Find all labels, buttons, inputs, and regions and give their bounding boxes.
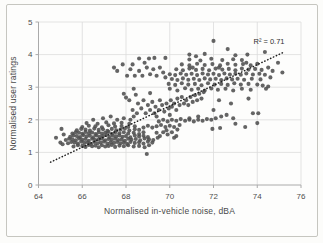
scatter-point	[124, 96, 128, 100]
scatter-point	[145, 152, 149, 156]
scatter-point	[164, 101, 168, 105]
scatter-point	[249, 63, 253, 67]
scatter-point	[157, 119, 161, 123]
scatter-point	[184, 98, 188, 102]
scatter-point	[175, 78, 179, 82]
scatter-point	[210, 62, 214, 66]
scatter-point	[197, 78, 201, 82]
scatter-point	[161, 70, 165, 74]
scatter-point	[186, 83, 190, 87]
scatter-point	[257, 72, 261, 76]
scatter-point	[160, 103, 164, 107]
scatter-point	[196, 87, 200, 91]
scatter-point	[240, 87, 244, 91]
scatter-point	[217, 73, 221, 77]
scatter-point	[201, 67, 205, 71]
scatter-point	[152, 56, 156, 60]
scatter-point	[141, 142, 145, 146]
x-tick-label: 76	[297, 192, 306, 201]
scatter-point	[216, 88, 220, 92]
scatter-point	[249, 88, 253, 92]
scatter-point	[85, 121, 89, 125]
scatter-point	[132, 144, 136, 148]
scatter-point	[155, 74, 159, 78]
scatter-point	[220, 58, 224, 62]
scatter-point	[231, 88, 235, 92]
scatter-point	[122, 116, 126, 120]
scatter-point	[168, 124, 172, 128]
scatter-point	[217, 98, 221, 102]
scatter-point	[191, 100, 195, 104]
scatter-point	[151, 138, 155, 142]
scatter-point	[153, 105, 157, 109]
scatter-point	[195, 62, 199, 66]
scatter-point	[134, 93, 138, 97]
scatter-point	[148, 91, 152, 95]
scatter-point	[192, 77, 196, 81]
scatter-point	[233, 68, 237, 72]
scatter-point	[128, 118, 132, 122]
scatter-point	[169, 98, 173, 102]
scatter-point	[219, 82, 223, 86]
scatter-point	[260, 68, 264, 72]
scatter-point	[186, 78, 190, 82]
scatter-point	[146, 103, 150, 107]
y-tick-label: 5	[28, 18, 33, 27]
scatter-point	[231, 116, 235, 120]
scatter-point	[115, 118, 119, 122]
scatter-point	[173, 83, 177, 87]
scatter-point	[101, 116, 105, 120]
scatter-point	[251, 72, 255, 76]
scatter-point	[276, 61, 280, 65]
scatter-point	[223, 87, 227, 91]
scatter-point	[178, 123, 182, 127]
scatter-point	[263, 50, 267, 54]
scatter-point	[175, 128, 179, 132]
scatter-point	[137, 56, 141, 60]
scatter-point	[219, 114, 223, 118]
scatter-point	[244, 61, 248, 65]
scatter-point	[180, 62, 184, 66]
scatter-point	[75, 128, 79, 132]
scatter-point	[175, 88, 179, 92]
scatter-point	[187, 57, 191, 61]
scatter-point	[158, 66, 162, 70]
scatter-point	[139, 106, 143, 110]
scatter-point	[211, 72, 215, 76]
scatter-point	[117, 131, 121, 135]
scatter-point	[206, 81, 210, 85]
x-tick-label: 66	[78, 192, 87, 201]
scatter-point	[264, 87, 268, 91]
scatter-point	[128, 67, 132, 71]
scatter-point	[208, 77, 212, 81]
scatter-point	[174, 108, 178, 112]
scatter-point	[132, 114, 136, 118]
scatter-point	[131, 108, 135, 112]
scatter-point	[113, 145, 117, 149]
scatter-point	[194, 54, 198, 58]
scatter-point	[109, 114, 113, 118]
scatter-point	[167, 82, 171, 86]
scatter-point	[168, 113, 172, 117]
scatter-point	[209, 57, 213, 61]
scatter-point	[199, 83, 203, 87]
scatter-point	[143, 61, 147, 65]
scatter-point	[253, 67, 257, 71]
scatter-point	[190, 72, 194, 76]
scatter-point	[228, 72, 232, 76]
y-axis-title: Normalised user ratings	[8, 44, 19, 164]
scatter-point	[268, 75, 272, 79]
scatter-point	[194, 68, 198, 72]
scatter-point	[137, 69, 141, 73]
scatter-point	[104, 120, 108, 124]
scatter-point	[232, 81, 236, 85]
scatter-point	[147, 56, 151, 60]
y-tick-label: 4	[28, 50, 33, 59]
scatter-point	[166, 132, 170, 136]
scatter-point	[96, 122, 100, 126]
scatter-point	[280, 70, 284, 74]
scatter-point	[137, 144, 141, 148]
scatter-point	[245, 53, 249, 57]
scatter-point	[195, 73, 199, 77]
scatter-point	[211, 108, 215, 112]
